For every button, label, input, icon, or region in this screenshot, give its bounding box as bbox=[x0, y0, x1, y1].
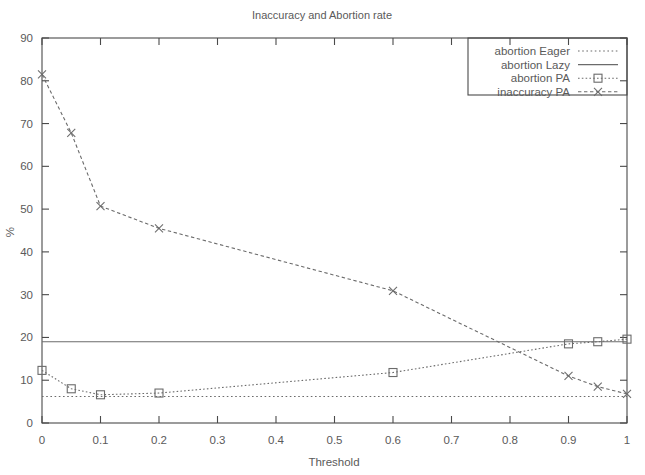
x-tick-label: 0.1 bbox=[93, 434, 109, 446]
x-tick-label: 1 bbox=[624, 434, 630, 446]
y-tick-label: 20 bbox=[20, 331, 33, 343]
series-line bbox=[42, 339, 627, 395]
series-line bbox=[42, 74, 627, 394]
chart-title: Inaccuracy and Abortion rate bbox=[252, 9, 392, 21]
x-tick-label: 0.9 bbox=[561, 434, 577, 446]
data-series-group bbox=[38, 70, 631, 398]
x-tick-label: 0 bbox=[39, 434, 45, 446]
legend-label-3: inaccuracy PA bbox=[497, 86, 570, 98]
x-tick-label: 0.4 bbox=[268, 434, 285, 446]
x-tick-label: 0.2 bbox=[151, 434, 167, 446]
x-tick-label: 0.8 bbox=[502, 434, 518, 446]
y-axis-label: % bbox=[4, 227, 16, 237]
legend-label-1: abortion Lazy bbox=[501, 59, 570, 71]
x-tick-label: 0.5 bbox=[327, 434, 343, 446]
y-tick-label: 70 bbox=[20, 118, 33, 130]
y-tick-label: 0 bbox=[27, 417, 33, 429]
series-2 bbox=[38, 335, 631, 399]
legend-label-0: abortion Eager bbox=[495, 45, 571, 57]
chart-container: Inaccuracy and Abortion rate % Threshold… bbox=[0, 0, 645, 475]
legend: abortion Eagerabortion Lazyabortion PAin… bbox=[495, 45, 618, 98]
y-tick-label: 50 bbox=[20, 203, 33, 215]
series-3 bbox=[38, 70, 631, 398]
x-tick-label: 0.6 bbox=[385, 434, 401, 446]
x-tick-label: 0.7 bbox=[444, 434, 460, 446]
y-tick-label: 60 bbox=[20, 160, 33, 172]
y-tick-label: 40 bbox=[20, 246, 33, 258]
y-tick-label: 90 bbox=[20, 32, 33, 44]
x-axis-ticks: 00.10.20.30.40.50.60.70.80.91 bbox=[39, 38, 630, 446]
x-tick-label: 0.3 bbox=[210, 434, 226, 446]
data-point-marker bbox=[97, 391, 105, 399]
legend-label-2: abortion PA bbox=[511, 72, 571, 84]
chart-svg: Inaccuracy and Abortion rate % Threshold… bbox=[0, 0, 645, 475]
y-tick-label: 10 bbox=[20, 374, 33, 386]
y-tick-label: 30 bbox=[20, 289, 33, 301]
y-tick-label: 80 bbox=[20, 75, 33, 87]
x-axis-label: Threshold bbox=[308, 456, 359, 468]
